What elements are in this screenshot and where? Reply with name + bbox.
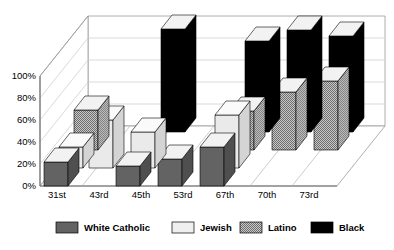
- three-d-bar-chart: 100% 80% 60% 40% 20% 0%: [0, 0, 394, 250]
- bar-45th-black: [161, 15, 196, 132]
- swatch-white-catholic-icon: [56, 222, 78, 233]
- legend-label-black: Black: [339, 222, 365, 233]
- swatch-latino-icon: [240, 222, 262, 233]
- legend-label-white-catholic: White Catholic: [84, 222, 150, 233]
- y-tick-20: 20%: [17, 158, 37, 169]
- x-tick-73rd: 73rd: [299, 189, 318, 200]
- legend-item-jewish[interactable]: Jewish: [172, 222, 232, 233]
- legend-item-white-catholic[interactable]: White Catholic: [56, 222, 150, 233]
- legend-item-latino[interactable]: Latino: [240, 222, 297, 233]
- chart-container: 100% 80% 60% 40% 20% 0%: [0, 0, 394, 250]
- bar-67th-white-catholic: [200, 133, 235, 186]
- y-tick-60: 60%: [17, 114, 37, 125]
- x-tick-45th: 45th: [132, 189, 151, 200]
- legend-item-black[interactable]: Black: [311, 222, 365, 233]
- legend-label-jewish: Jewish: [200, 222, 232, 233]
- x-tick-70th: 70th: [258, 189, 277, 200]
- x-tick-43rd: 43rd: [89, 189, 108, 200]
- legend-label-latino: Latino: [268, 222, 297, 233]
- x-tick-31st: 31st: [48, 189, 66, 200]
- swatch-jewish-icon: [172, 222, 194, 233]
- x-tick-53rd: 53rd: [173, 189, 192, 200]
- y-tick-40: 40%: [17, 136, 37, 147]
- y-tick-80: 80%: [17, 92, 37, 103]
- y-tick-100: 100%: [12, 70, 37, 81]
- swatch-black-icon: [311, 222, 333, 233]
- chart-legend: White Catholic Jewish Latino Black: [56, 222, 365, 233]
- y-tick-0: 0%: [22, 180, 36, 191]
- x-tick-67th: 67th: [216, 189, 235, 200]
